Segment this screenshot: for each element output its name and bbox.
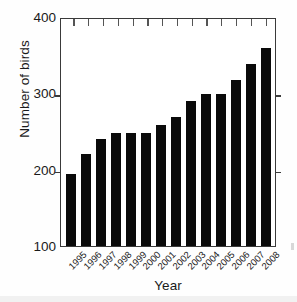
bar — [231, 80, 241, 246]
y-axis-tick — [55, 95, 61, 96]
y-axis-tick-right — [275, 172, 281, 173]
y-axis-tick-label: 400 — [20, 11, 56, 25]
bar — [171, 117, 181, 246]
y-axis-tick — [55, 172, 61, 173]
y-axis-tick-label: 300 — [20, 87, 56, 101]
y-axis-tick-label-group: 100200300400 — [16, 0, 56, 302]
x-axis-top-tick — [206, 19, 207, 26]
y-axis-tick-right — [275, 95, 281, 96]
y-axis-tick-label: 200 — [20, 164, 56, 178]
bar — [81, 154, 91, 246]
page-bottom-band — [0, 296, 297, 302]
bar — [111, 133, 121, 247]
bar — [126, 133, 136, 247]
bar — [96, 139, 106, 246]
bar — [246, 64, 256, 246]
x-axis-top-tick — [236, 19, 237, 26]
bar — [186, 101, 196, 246]
x-axis-top-tick — [103, 19, 104, 26]
bar — [156, 125, 166, 246]
x-axis-top-tick — [88, 19, 89, 26]
bar — [66, 174, 76, 246]
bar — [216, 94, 226, 246]
x-axis-top-tick — [192, 19, 193, 26]
bar — [261, 48, 271, 246]
bar-group — [61, 19, 275, 246]
x-axis-top-tick — [147, 19, 148, 26]
x-axis-top-tick — [221, 19, 222, 26]
x-axis-top-tick — [118, 19, 119, 26]
bar — [201, 94, 211, 246]
x-axis-top-tick — [73, 19, 74, 26]
x-axis-top-tick — [177, 19, 178, 26]
x-axis-top-tick — [251, 19, 252, 26]
y-axis-tick-label: 100 — [20, 240, 56, 254]
x-axis-top-tick — [162, 19, 163, 26]
x-axis-top-tick — [266, 19, 267, 26]
bar-chart-figure: Number of birds 100200300400 19951996199… — [0, 0, 297, 302]
plot-area — [60, 18, 276, 247]
bar — [141, 133, 151, 247]
page-edge-artifact — [291, 243, 294, 250]
x-axis-top-tick — [133, 19, 134, 26]
x-axis-title: Year — [60, 278, 276, 293]
